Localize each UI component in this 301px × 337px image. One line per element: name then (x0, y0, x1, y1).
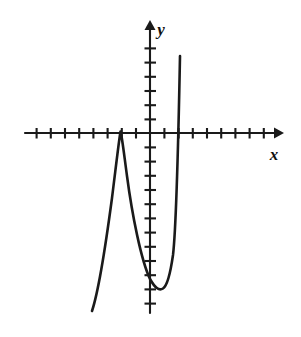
x-axis-label: x (269, 145, 279, 164)
graph-figure: x y (0, 0, 301, 337)
coordinate-plane-svg: x y (0, 0, 301, 337)
y-axis-label: y (155, 20, 165, 39)
